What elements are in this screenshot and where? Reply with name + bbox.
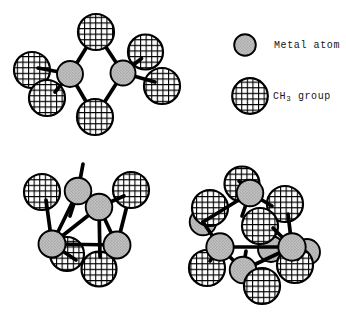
ch3-group-swatch-icon <box>230 76 270 116</box>
metal-atom <box>111 61 136 86</box>
ch3-group <box>78 14 114 50</box>
ch3-group <box>24 174 60 210</box>
ch3-label-prefix: CH <box>273 91 286 102</box>
legend-row-metal: Metal atom <box>232 32 340 58</box>
metal-atom <box>237 180 264 207</box>
legend-label-ch3: CH3 group <box>273 91 331 102</box>
structure-dimer-bridged <box>14 14 180 135</box>
structure-hexamer-cluster <box>189 167 320 305</box>
ch3-group <box>242 208 278 244</box>
ch3-group <box>244 268 280 304</box>
metal-atom <box>104 232 131 259</box>
figure-metal-methyl-structures: Metal atom CH3 group <box>0 0 346 312</box>
ch3-group <box>144 68 180 104</box>
ch3-group <box>113 172 149 208</box>
metal-atom <box>39 231 66 258</box>
metal-atom <box>57 61 83 87</box>
ch3-label-suffix: group <box>291 91 331 102</box>
metal-atom <box>86 194 113 221</box>
ch3-group <box>77 99 113 135</box>
structure-tetramer-cluster <box>24 164 149 287</box>
metal-atom <box>206 233 233 260</box>
metal-atom-swatch-icon <box>232 32 258 58</box>
legend-row-ch3: CH3 group <box>230 76 331 116</box>
metal-atom <box>278 233 305 260</box>
legend-label-metal: Metal atom <box>274 40 340 51</box>
